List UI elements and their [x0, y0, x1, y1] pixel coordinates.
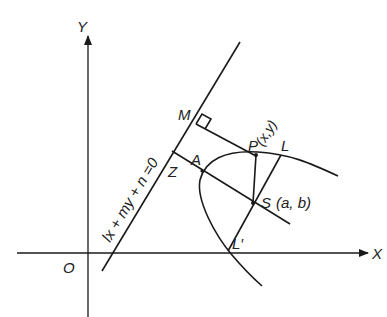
- point-s-dot: [251, 201, 255, 205]
- y-axis-label: Y: [77, 18, 88, 35]
- focal-radius-ps: [253, 155, 256, 203]
- label-z: Z: [167, 163, 178, 180]
- right-angle-marker: [196, 114, 211, 129]
- origin-label: O: [63, 259, 75, 276]
- label-a: A: [190, 151, 201, 168]
- parabola-axis-zs: [172, 151, 290, 224]
- point-a-dot: [200, 169, 203, 172]
- label-p-coords: (x,y): [252, 117, 280, 149]
- label-l-prime: L′: [232, 235, 244, 252]
- directrix-equation-label: lx + my + n =0: [98, 154, 162, 244]
- label-m: M: [178, 106, 191, 123]
- parabola-diagram: Y X O lx + my + n =0 M P (x,y) L Z A S (…: [0, 0, 387, 317]
- x-axis-label: X: [371, 245, 383, 262]
- label-s-coords: (a, b): [276, 194, 311, 211]
- label-l: L: [281, 137, 289, 154]
- label-s: S: [261, 194, 271, 211]
- parabola-curve: [199, 152, 338, 286]
